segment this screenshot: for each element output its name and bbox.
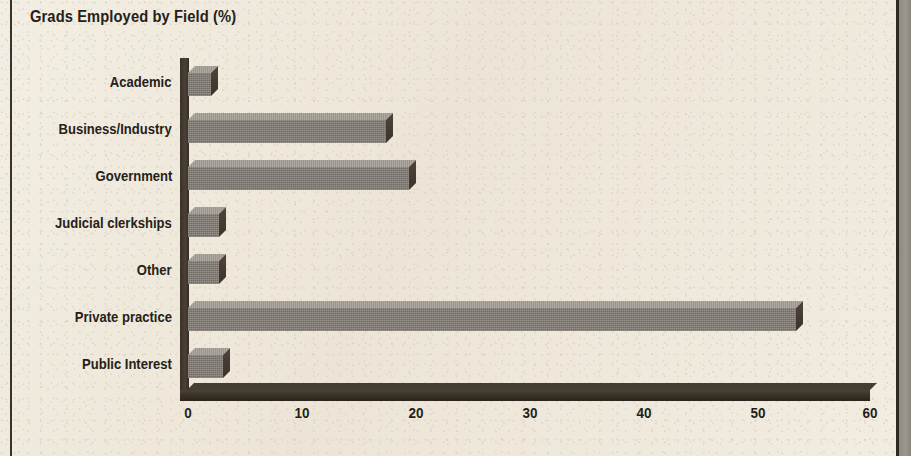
bar-front-face — [188, 261, 219, 284]
x-tick-0: 0 — [184, 404, 192, 421]
x-tick-20: 20 — [408, 404, 423, 421]
bar-government — [188, 160, 409, 183]
bar-business-industry — [188, 113, 386, 136]
x-tick-60: 60 — [862, 404, 877, 421]
category-label-business-industry: Business/Industry — [59, 121, 172, 137]
bar-private-practice — [188, 301, 796, 324]
bar-front-face — [188, 120, 386, 143]
bar-top-face — [188, 301, 803, 308]
x-axis — [180, 390, 870, 401]
bar-front-face — [188, 167, 409, 190]
x-tick-10: 10 — [294, 404, 309, 421]
bar-academic — [188, 66, 211, 89]
bar-public-interest — [188, 348, 223, 371]
x-axis-top-face — [187, 383, 877, 390]
chart-page: Grads Employed by Field (%) Academic Bus… — [0, 0, 911, 456]
bar-other — [188, 254, 219, 277]
category-label-private-practice: Private practice — [75, 309, 172, 325]
bar-front-face — [188, 355, 223, 378]
x-tick-30: 30 — [522, 404, 537, 421]
bar-top-face — [188, 113, 393, 120]
bar-top-face — [188, 160, 416, 167]
x-tick-40: 40 — [636, 404, 651, 421]
category-label-academic: Academic — [110, 74, 172, 90]
bar-top-face — [188, 348, 230, 355]
bar-chart-plot: Academic Business/Industry Government Ju… — [0, 0, 911, 456]
bar-front-face — [188, 308, 796, 331]
category-label-judicial-clerkships: Judicial clerkships — [55, 215, 172, 231]
bar-front-face — [188, 73, 211, 96]
category-label-government: Government — [95, 168, 172, 184]
category-label-public-interest: Public Interest — [82, 356, 172, 372]
bar-front-face — [188, 214, 219, 237]
bar-judicial-clerkships — [188, 207, 219, 230]
x-tick-50: 50 — [750, 404, 765, 421]
category-label-other: Other — [137, 262, 172, 278]
